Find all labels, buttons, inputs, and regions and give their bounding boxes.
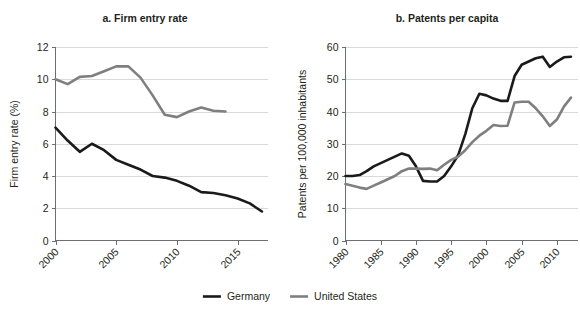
y-tick-label: 60: [327, 41, 339, 53]
figure-root: a. Firm entry rate 024681012 20002005201…: [0, 0, 580, 316]
legend-label-united-states: United States: [314, 290, 377, 302]
panel-b-y-axis-label: Patents per 100,000 inhabitants: [296, 70, 308, 218]
y-tick-label: 10: [327, 202, 339, 214]
panel-a-title: a. Firm entry rate: [102, 12, 187, 24]
y-tick-label: 0: [333, 235, 339, 247]
y-tick-label: 30: [327, 138, 339, 150]
y-tick-label: 2: [43, 202, 49, 214]
y-tick-label: 50: [327, 73, 339, 85]
y-tick-label: 12: [37, 41, 49, 53]
y-tick-label: 8: [43, 106, 49, 118]
y-tick-label: 10: [37, 73, 49, 85]
y-tick-label: 40: [327, 106, 339, 118]
panel-b-title: b. Patents per capita: [396, 12, 499, 24]
y-tick-label: 4: [43, 170, 49, 182]
y-tick-label: 0: [43, 235, 49, 247]
legend-label-germany: Germany: [227, 290, 271, 302]
panel-a-y-axis-label: Firm entry rate (%): [8, 100, 20, 188]
y-tick-label: 6: [43, 138, 49, 150]
y-tick-label: 20: [327, 170, 339, 182]
